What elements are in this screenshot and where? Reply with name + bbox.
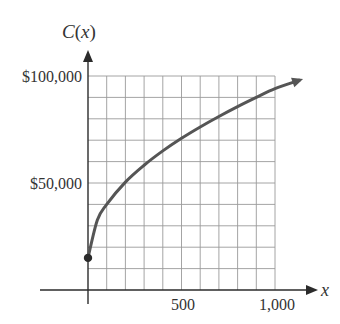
x-axis-arrow-icon bbox=[306, 285, 318, 295]
y-tick-label-50000: $50,000 bbox=[30, 175, 82, 192]
curve-arrow-icon bbox=[291, 78, 303, 87]
y-axis-title: C(x) bbox=[62, 21, 96, 43]
cost-function-chart: C(x) $100,000 $50,000 500 1,000 x bbox=[0, 0, 340, 324]
x-tick-label-500: 500 bbox=[171, 296, 195, 313]
x-axis-title: x bbox=[320, 280, 329, 300]
x-tick-label-1000: 1,000 bbox=[259, 296, 295, 313]
y-tick-label-100000: $100,000 bbox=[22, 68, 82, 85]
y-axis-arrow-icon bbox=[83, 50, 93, 62]
start-point-marker bbox=[84, 254, 92, 262]
grid-lines bbox=[88, 76, 275, 290]
cost-curve bbox=[88, 80, 299, 258]
